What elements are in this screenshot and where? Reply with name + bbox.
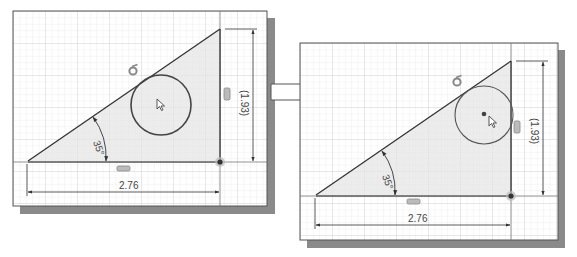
panel-after: 35° 2.76 (1.93): [300, 43, 565, 248]
horizontal-constraint-icon[interactable]: [407, 199, 420, 204]
figure-canvas: 35° 2.76 (1.93): [0, 0, 577, 257]
fixed-point-icon[interactable]: [506, 191, 516, 201]
horizontal-dimension-label[interactable]: 2.76: [119, 180, 139, 191]
panel-before: 35° 2.76 (1.93): [13, 11, 275, 214]
vertical-constraint-icon[interactable]: [514, 121, 520, 133]
vertical-dimension-label[interactable]: (1.93): [529, 118, 540, 144]
vertical-constraint-icon[interactable]: [224, 88, 230, 100]
horizontal-dimension-label[interactable]: 2.76: [408, 213, 428, 224]
vertical-dimension-label[interactable]: (1.93): [239, 90, 250, 116]
fixed-point-icon[interactable]: [215, 157, 225, 167]
horizontal-constraint-icon[interactable]: [117, 166, 130, 171]
circle-center-point[interactable]: [482, 112, 487, 117]
